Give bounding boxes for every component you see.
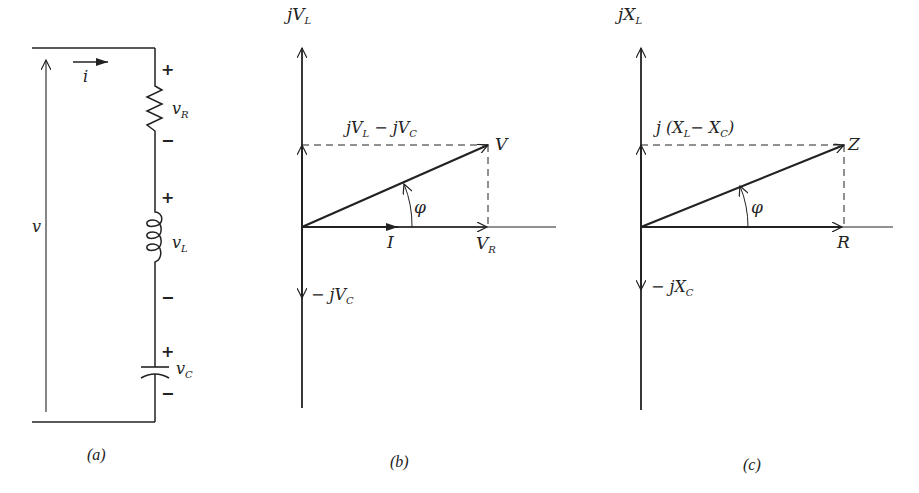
figure-canvas: + − + − + − v i vR vL vC (a) jVL [0, 0, 919, 493]
current-label: i [83, 67, 88, 86]
i-label: I [386, 232, 394, 252]
vr-label: VR [476, 233, 496, 255]
source-voltage-label: v [32, 217, 41, 236]
resistor-minus: − [161, 131, 174, 150]
neg-jxc-label: − jXC [651, 277, 694, 298]
neg-jvc-label: − jVC [311, 285, 354, 306]
inductor-minus: − [161, 288, 174, 307]
v-label: V [495, 134, 509, 154]
z-label: Z [847, 134, 861, 154]
resistor-branch [147, 48, 162, 178]
caption-b: (b) [390, 453, 409, 471]
axis-label-jxl: jXL [614, 4, 642, 26]
panel-b-voltage-phasor: jVL jVL − jVC V φ I VR − jVC (b) [283, 4, 556, 471]
resistor-voltage-label: vR [172, 99, 189, 120]
panel-c-impedance: jXL j (XL− XC) Z φ R − jXC (c) [614, 4, 893, 474]
phi-arc [404, 184, 412, 227]
capacitor-minus: − [161, 384, 174, 403]
inductor-voltage-label: vL [172, 233, 188, 254]
r-label: R [836, 232, 850, 252]
z-resultant-phasor [641, 145, 844, 227]
capacitor-voltage-label: vC [176, 359, 193, 380]
resistor-plus: + [161, 60, 174, 79]
inductor-coil-icon [147, 178, 162, 367]
caption-c: (c) [743, 456, 761, 474]
phi-arc [740, 186, 748, 227]
caption-a: (a) [87, 446, 106, 464]
panel-a-circuit: + − + − + − v i vR vL vC (a) [32, 48, 193, 464]
v-resultant-phasor [302, 145, 488, 227]
inductor-plus: + [161, 188, 174, 207]
net-reactive-label: jVL − jVC [343, 118, 417, 139]
phi-label: φ [414, 197, 426, 217]
net-reactance-label: j (XL− XC) [653, 118, 734, 139]
phi-label: φ [751, 197, 763, 217]
axis-label-jvl: jVL [283, 4, 312, 26]
capacitor-plus: + [161, 342, 174, 361]
